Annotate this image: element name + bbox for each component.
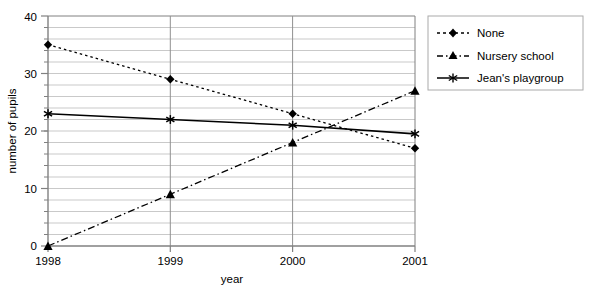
legend: None Nursery school Jean's playgroup <box>428 16 583 90</box>
x-tick-label-2000: 2000 <box>280 255 306 267</box>
legend-label-nursery-school: Nursery school <box>477 50 554 62</box>
x-tick-label-2001: 2001 <box>402 255 428 267</box>
legend-label-jeans-playgroup: Jean's playgroup <box>477 72 564 84</box>
y-tick-label-40: 40 <box>24 11 37 23</box>
y-axis-title: number of pupils <box>6 88 18 173</box>
line-chart: 0 10 20 30 40 1998 1999 2000 2001 year n… <box>0 0 591 290</box>
x-tick-label-1998: 1998 <box>35 255 61 267</box>
legend-label-none: None <box>477 27 505 39</box>
x-axis-title: year <box>221 273 244 285</box>
x-tick-label-1999: 1999 <box>158 255 184 267</box>
y-tick-label-10: 10 <box>24 183 37 195</box>
chart-svg: 0 10 20 30 40 1998 1999 2000 2001 year n… <box>0 0 591 290</box>
y-tick-label-30: 30 <box>24 68 37 80</box>
x-axis-ticks <box>48 246 415 252</box>
y-tick-label-0: 0 <box>31 240 37 252</box>
y-tick-label-20: 20 <box>24 125 37 137</box>
